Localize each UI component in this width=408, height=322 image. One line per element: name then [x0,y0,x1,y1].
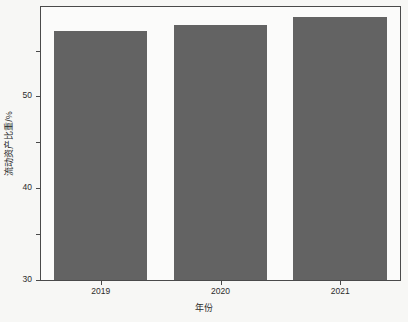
y-axis-tick: 40 [36,96,41,97]
x-axis-tick [340,280,341,285]
plot-frame: 01020304050201920202021 [40,6,401,281]
y-axis-tick: 0 [36,280,41,281]
y-axis-tick: 50 [36,51,41,52]
bar-2021 [293,17,386,280]
x-axis-tick-label: 2019 [91,287,110,296]
x-axis-title: 年份 [0,304,408,313]
y-axis-tick: 10 [36,234,41,235]
y-axis-tick-label: 30 [23,274,32,283]
y-axis-tick-label: 40 [23,183,32,192]
x-axis-tick-label: 2021 [331,287,350,296]
y-axis-tick: 30 [36,142,41,143]
y-axis-title: 流动资产比重/% [2,6,16,281]
y-axis-tick: 20 [36,188,41,189]
bar-2019 [54,31,147,280]
x-axis-tick [101,280,102,285]
y-axis-tick-label: 50 [23,91,32,100]
x-axis-tick-label: 2020 [211,287,230,296]
plot-area: 01020304050201920202021 [41,7,400,280]
y-axis-title-text: 流动资产比重/% [5,111,14,176]
chart-figure: 流动资产比重/% 01020304050201920202021 年份 [0,0,408,322]
bar-2020 [174,25,267,280]
x-axis-tick [221,280,222,285]
